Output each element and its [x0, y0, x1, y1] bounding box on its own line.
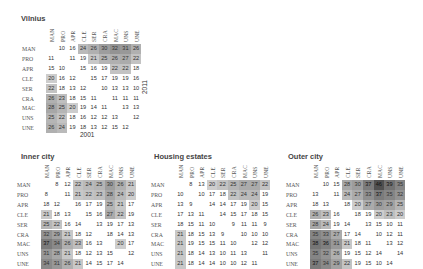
- heatmap-cell: 19: [126, 210, 137, 220]
- row-header: MAC: [17, 239, 41, 249]
- heatmap-cell: 15: [94, 259, 105, 269]
- heatmap-cell: 10: [260, 230, 271, 240]
- heatmap-cell: 29: [331, 259, 342, 269]
- heatmap-cell: 11: [363, 239, 374, 249]
- heatmap-cell: 10: [249, 230, 260, 240]
- row-header: CLE: [17, 210, 41, 220]
- heatmap-cell: 20: [207, 180, 218, 190]
- heatmap-cell: 15: [105, 249, 116, 259]
- heatmap-cell: 8: [52, 180, 63, 190]
- heatmap-cell: 31: [331, 239, 342, 249]
- heatmap-cell: 10: [374, 230, 385, 240]
- heatmap-cell: 17: [99, 74, 110, 84]
- heatmap-cell: 25: [99, 54, 110, 64]
- heatmap-cell: 16: [78, 113, 89, 123]
- heatmap-cell: 13: [88, 123, 99, 133]
- heatmap-cell: 20: [115, 239, 126, 249]
- column-header: MAN: [46, 22, 57, 42]
- heatmap-cell: 10: [217, 259, 228, 269]
- heatmap-cell: 12: [83, 249, 94, 259]
- heatmap-cell: 36: [321, 239, 332, 249]
- row-header: APR: [22, 64, 46, 74]
- heatmap-cell: 17: [105, 259, 116, 269]
- heatmap-cell: 18: [73, 249, 84, 259]
- heatmap-cell: 9: [260, 220, 271, 230]
- heatmap-cell: 21: [175, 259, 186, 269]
- heatmap-cell: 8: [41, 190, 52, 200]
- heatmap-cell: 13: [126, 220, 137, 230]
- row-header: MAC: [22, 103, 46, 113]
- heatmap-cell: [67, 64, 78, 74]
- heatmap-cell: 13: [186, 210, 197, 220]
- heatmap-cell: 15: [228, 210, 239, 220]
- heatmap-cell: 13: [94, 220, 105, 230]
- column-header: CLE: [342, 158, 353, 178]
- row-header: MAC: [286, 239, 310, 249]
- heatmap-cell: 14: [196, 259, 207, 269]
- column-header: SER: [352, 158, 363, 178]
- column-header: MAC: [105, 158, 116, 178]
- row-header: SER: [151, 220, 175, 230]
- heatmap-cell: 15: [331, 180, 342, 190]
- heatmap-cell: 37: [310, 259, 321, 269]
- heatmap-cell: 26: [46, 123, 57, 133]
- heatmap-cell: 14: [196, 249, 207, 259]
- heatmap-cell: 21: [73, 259, 84, 269]
- heatmap-cell: 15: [186, 220, 197, 230]
- heatmap-cell: 15: [363, 259, 374, 269]
- heatmap-cell: 16: [131, 74, 142, 84]
- heatmap-cell: 20: [67, 103, 78, 113]
- row-header: UNS: [286, 249, 310, 259]
- heatmap-cell: 13: [239, 249, 250, 259]
- heatmap-cell: 18: [217, 190, 228, 200]
- row-header: APR: [286, 200, 310, 210]
- heatmap-cell: 28: [342, 180, 353, 190]
- heatmap-cell: 11: [110, 94, 121, 104]
- heatmap-cell: 10: [228, 239, 239, 249]
- heatmap-cell: 20: [374, 210, 385, 220]
- heatmap-cell: 19: [239, 200, 250, 210]
- heatmap-cell: 18: [67, 113, 78, 123]
- heatmap-cell: 20: [352, 200, 363, 210]
- heatmap-cell: [110, 103, 121, 113]
- row-header: UNE: [22, 123, 46, 133]
- heatmap-cell: 29: [384, 200, 395, 210]
- heatmap-cell: 14: [352, 230, 363, 240]
- heatmap-cell: 21: [62, 230, 73, 240]
- heatmap-cell: 10: [131, 84, 142, 94]
- heatmap-cell: 14: [395, 249, 406, 259]
- row-header: MAN: [22, 44, 46, 54]
- row-header: PRO: [22, 54, 46, 64]
- heatmap-cell: 13: [207, 230, 218, 240]
- heatmap-cell: 25: [395, 200, 406, 210]
- heatmap-cell: 17: [207, 190, 218, 200]
- heatmap-cell: 13: [110, 84, 121, 94]
- heatmap-cell: 11: [217, 239, 228, 249]
- heatmap-cell: 21: [73, 190, 84, 200]
- heatmap-cell: 15: [83, 210, 94, 220]
- heatmap-cell: 10: [374, 259, 385, 269]
- heatmap-cell: 13: [67, 84, 78, 94]
- heatmap-cell: 18: [131, 64, 142, 74]
- heatmap-cell: 18: [186, 249, 197, 259]
- heatmap-cell: 11: [395, 220, 406, 230]
- column-header: APR: [196, 158, 207, 178]
- heatmap-cell: 10: [228, 259, 239, 269]
- heatmap-cell: [73, 210, 84, 220]
- heatmap-cell: 18: [57, 84, 68, 94]
- column-header: CRA: [228, 158, 239, 178]
- heatmap-cell: 8: [186, 180, 197, 190]
- heatmap-cell: 16: [62, 220, 73, 230]
- heatmap-cell: 12: [384, 230, 395, 240]
- heatmap-cell: 25: [41, 220, 52, 230]
- column-header: UNS: [120, 22, 131, 42]
- heatmap-cell: 19: [99, 64, 110, 74]
- heatmap-cell: 20: [46, 74, 57, 84]
- heatmap-cell: 13: [321, 200, 332, 210]
- heatmap-cell: 10: [57, 44, 68, 54]
- heatmap-cell: 38: [310, 239, 321, 249]
- heatmap-cell: 12: [249, 239, 260, 249]
- heatmap-cell: 21: [62, 249, 73, 259]
- heatmap-cell: 13: [131, 103, 142, 113]
- heatmap-cell: [342, 210, 353, 220]
